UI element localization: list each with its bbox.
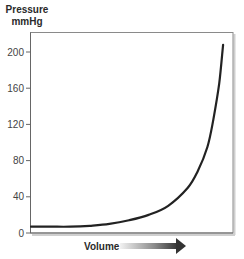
y-tick-label: 40 — [13, 191, 25, 202]
plot-frame — [31, 33, 234, 234]
x-axis-label: Volume — [84, 241, 120, 252]
y-tick-label: 160 — [7, 83, 24, 94]
pressure-volume-chart: 04080120160200 Volume — [0, 0, 244, 259]
plot-frame-shadow — [32, 34, 235, 235]
y-axis-ticks: 04080120160200 — [7, 47, 30, 239]
pressure-volume-curve — [31, 45, 223, 227]
volume-arrow-icon — [120, 238, 186, 254]
y-tick-label: 200 — [7, 47, 24, 58]
y-tick-label: 0 — [18, 228, 24, 239]
y-tick-label: 120 — [7, 119, 24, 130]
y-tick-label: 80 — [13, 155, 25, 166]
